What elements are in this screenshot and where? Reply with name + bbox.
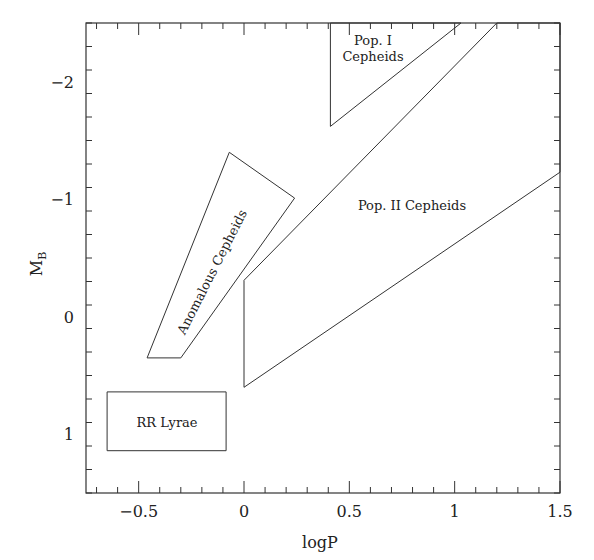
label-anomalous-cepheids: Anomalous Cepheids	[174, 207, 250, 338]
regions-layer	[107, 23, 560, 451]
y-tick-label: −1	[50, 190, 74, 209]
label-pop-i-cepheids: Pop. ICepheids	[342, 33, 403, 64]
y-tick-label: −2	[50, 73, 74, 92]
svg-text:MB: MB	[27, 252, 49, 276]
x-tick-label: 0	[239, 502, 249, 521]
x-tick-label: 1	[450, 502, 460, 521]
svg-text:Pop. I: Pop. I	[354, 33, 392, 48]
chart-svg: −0.500.511.5−2−101 Pop. ICepheidsPop. II…	[0, 0, 594, 560]
x-axis-label: logP	[302, 533, 338, 552]
x-tick-label: −0.5	[119, 502, 158, 521]
y-tick-label: 1	[64, 425, 74, 444]
region-pop-i-cepheids	[330, 23, 461, 126]
svg-text:Cepheids: Cepheids	[342, 49, 403, 64]
y-axis-label-main: M	[27, 260, 46, 276]
label-rr-lyrae: RR Lyrae	[136, 415, 197, 430]
x-tick-label: 0.5	[337, 502, 362, 521]
svg-text:RR Lyrae: RR Lyrae	[136, 415, 197, 430]
y-axis-label-subscript: B	[36, 252, 49, 260]
svg-text:Pop. II Cepheids: Pop. II Cepheids	[358, 198, 466, 213]
svg-text:Anomalous Cepheids: Anomalous Cepheids	[174, 207, 250, 338]
x-tick-label: 1.5	[547, 502, 572, 521]
region-labels: Pop. ICepheidsPop. II CepheidsAnomalous …	[136, 33, 466, 430]
label-pop-ii-cepheids: Pop. II Cepheids	[358, 198, 466, 213]
axis-ticks: −0.500.511.5−2−101	[50, 23, 572, 521]
y-axis-label: MB	[27, 252, 49, 276]
y-tick-label: 0	[64, 308, 74, 327]
